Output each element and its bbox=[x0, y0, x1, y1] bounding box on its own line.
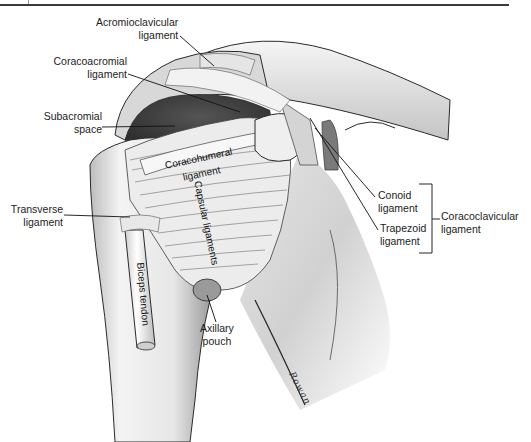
label-acromioclavicular-ligament: Acromioclavicular ligament bbox=[96, 16, 178, 42]
label-line: Acromioclavicular bbox=[96, 16, 178, 29]
label-line: ligament bbox=[96, 29, 178, 42]
label-line: pouch bbox=[200, 335, 234, 348]
label-line: Subacromial bbox=[42, 110, 102, 123]
label-line: ligament bbox=[378, 202, 418, 215]
label-coracoacromial-ligament: Coracoacromial ligament bbox=[53, 55, 127, 81]
label-line: ligament bbox=[53, 68, 127, 81]
label-line: ligament bbox=[10, 216, 63, 229]
label-subacromial-space: Subacromial space bbox=[42, 110, 102, 136]
label-line: Coracoacromial bbox=[53, 55, 127, 68]
label-transverse-ligament: Transverse ligament bbox=[10, 203, 63, 229]
label-line: ligament bbox=[380, 235, 426, 248]
label-line: Axillary bbox=[200, 322, 234, 335]
label-line: Trapezoid bbox=[380, 222, 426, 235]
label-conoid-ligament: Conoid ligament bbox=[378, 189, 418, 215]
label-line: ligament bbox=[441, 223, 519, 236]
label-trapezoid-ligament: Trapezoid ligament bbox=[380, 222, 426, 248]
axillary-pouch-shape bbox=[193, 279, 221, 301]
label-line: Coracoclavicular bbox=[441, 210, 519, 223]
label-line: Conoid bbox=[378, 189, 418, 202]
label-axillary-pouch: Axillary pouch bbox=[200, 322, 234, 348]
label-coracoclavicular-ligament: Coracoclavicular ligament bbox=[441, 210, 519, 236]
label-line: Transverse bbox=[10, 203, 63, 216]
label-line: space bbox=[42, 123, 102, 136]
